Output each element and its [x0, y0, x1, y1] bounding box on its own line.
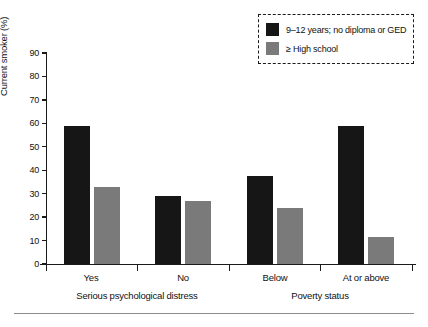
y-tick-60: 60 [30, 118, 46, 128]
bar-yes-black [64, 126, 90, 264]
y-tick-label-10: 10 [30, 236, 39, 246]
y-tick-label-90: 90 [30, 48, 39, 58]
x-axis-separator-2 [229, 265, 230, 271]
y-tick-label-60: 60 [30, 118, 39, 128]
bar-no-black [155, 196, 181, 264]
x-axis-separator-3 [320, 265, 321, 271]
y-tick-mark [42, 193, 46, 194]
y-tick-mark [42, 52, 46, 53]
y-tick-50: 50 [30, 142, 46, 152]
y-tick-mark [42, 99, 46, 100]
y-tick-label-40: 40 [30, 165, 39, 175]
y-axis-title: Current smoker (%) [0, 17, 9, 96]
bar-at-or-above-black [338, 126, 364, 264]
bar-no-gray [185, 201, 211, 264]
x-group-label-distress: Serious psychological distress [76, 290, 197, 301]
y-tick-mark [42, 170, 46, 171]
y-tick-mark [42, 123, 46, 124]
y-tick-mark [42, 76, 46, 77]
legend-swatch-black [266, 23, 279, 36]
x-axis-separator-0 [46, 265, 47, 271]
x-label-yes: Yes [84, 272, 99, 283]
y-tick-label-70: 70 [30, 95, 39, 105]
bottom-rule [14, 313, 414, 314]
bar-below-black [247, 176, 273, 264]
y-tick-70: 70 [30, 95, 46, 105]
y-tick-label-0: 0 [34, 259, 39, 269]
y-tick-20: 20 [30, 212, 46, 222]
legend-item-0: 9–12 years; no diploma or GED [266, 20, 407, 39]
y-tick-label-80: 80 [30, 71, 39, 81]
y-tick-10: 10 [30, 236, 46, 246]
y-tick-label-50: 50 [30, 142, 39, 152]
x-label-below: Below [263, 272, 288, 283]
y-tick-mark [42, 146, 46, 147]
y-tick-40: 40 [30, 165, 46, 175]
figure: 9–12 years; no diploma or GED ≥ High sch… [0, 0, 428, 327]
bar-below-gray [277, 208, 303, 264]
y-tick-label-20: 20 [30, 212, 39, 222]
x-axis-separator-4 [412, 265, 413, 271]
plot-area: 90 80 70 60 50 40 30 20 10 0 [46, 53, 412, 264]
bar-yes-gray [94, 187, 120, 264]
x-axis-line [40, 264, 416, 265]
x-axis-separator-1 [137, 265, 138, 271]
y-tick-mark [42, 216, 46, 217]
legend-label-1: ≥ High school [286, 44, 338, 54]
y-tick-80: 80 [30, 71, 46, 81]
y-tick-mark [42, 240, 46, 241]
y-tick-30: 30 [30, 189, 46, 199]
legend-label-0: 9–12 years; no diploma or GED [286, 25, 406, 35]
x-group-label-poverty: Poverty status [291, 290, 348, 301]
bar-at-or-above-gray [368, 237, 394, 264]
y-tick-90: 90 [30, 48, 46, 58]
y-tick-label-30: 30 [30, 189, 39, 199]
x-label-at-or-above: At or above [343, 272, 389, 283]
y-tick-0: 0 [34, 259, 46, 269]
x-label-no: No [177, 272, 189, 283]
